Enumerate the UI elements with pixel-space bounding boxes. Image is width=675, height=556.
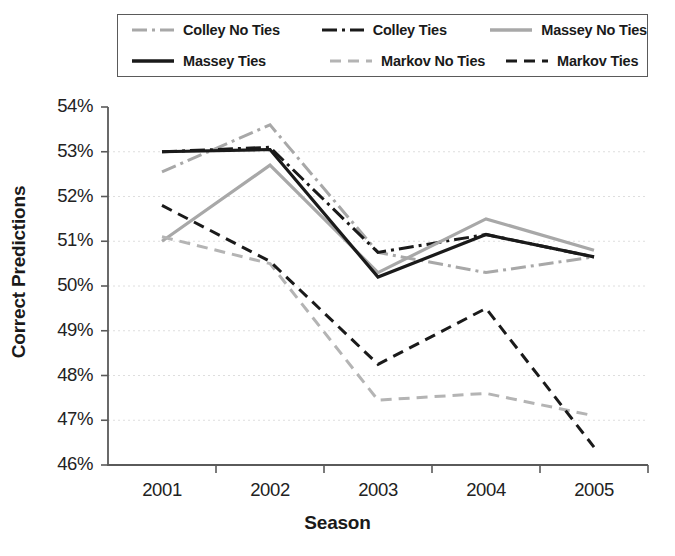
chart-page: Colley No Ties Colley Ties Massey No Tie… (0, 0, 675, 556)
legend-item-markov-no-ties: Markov No Ties (330, 53, 506, 69)
x-tick-2005: 2005 (549, 479, 639, 501)
x-tick-2001: 2001 (117, 479, 207, 501)
legend-swatch-massey-no-ties (490, 23, 532, 37)
legend-label-markov-no-ties: Markov No Ties (381, 53, 485, 69)
legend-swatch-markov-no-ties (330, 54, 372, 68)
legend-item-colley-no-ties: Colley No Ties (118, 22, 322, 38)
legend-item-massey-no-ties: Massey No Ties (490, 22, 647, 38)
legend-label-colley-no-ties: Colley No Ties (183, 22, 280, 38)
legend-label-massey-no-ties: Massey No Ties (541, 22, 647, 38)
legend-swatch-colley-ties (322, 23, 364, 37)
legend-swatch-markov-ties (506, 54, 548, 68)
gridlines (108, 152, 648, 465)
series-line-markov-no-ties (162, 237, 594, 416)
legend-swatch-colley-no-ties (132, 23, 174, 37)
x-axis-label: Season (0, 512, 675, 534)
series-line-massey-ties (162, 150, 594, 278)
legend-item-colley-ties: Colley Ties (322, 22, 491, 38)
legend-label-colley-ties: Colley Ties (373, 22, 447, 38)
legend-swatch-massey-ties (132, 54, 174, 68)
x-tick-2002: 2002 (225, 479, 315, 501)
legend-row-2: Massey Ties Markov No Ties Markov Ties (118, 46, 647, 77)
chart-plot-area: Correct Predictions 46%47%48%49%50%51%52… (0, 85, 675, 556)
legend-row-1: Colley No Ties Colley Ties Massey No Tie… (118, 15, 647, 46)
legend-item-massey-ties: Massey Ties (118, 53, 330, 69)
legend-item-markov-ties: Markov Ties (506, 53, 638, 69)
legend-label-massey-ties: Massey Ties (183, 53, 266, 69)
axis-ticks (101, 107, 648, 473)
legend-label-markov-ties: Markov Ties (557, 53, 638, 69)
x-tick-2003: 2003 (333, 479, 423, 501)
chart-legend: Colley No Ties Colley Ties Massey No Tie… (117, 14, 648, 77)
x-tick-2004: 2004 (441, 479, 531, 501)
series-line-massey-no-ties (162, 165, 594, 272)
